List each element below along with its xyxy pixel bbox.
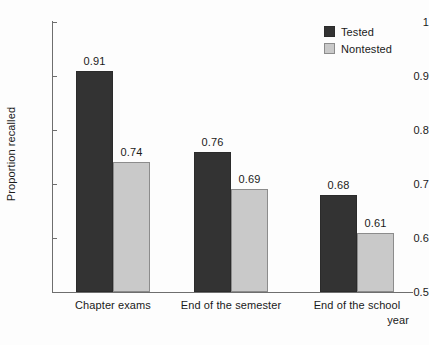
bar-chart-figure: 10.90.80.70.60.5 Proportion recalled 0.9… [0,0,429,345]
legend-item-tested[interactable]: Tested [324,24,392,39]
plot-area: 0.910.760.680.740.690.61 [52,22,412,292]
y-axis-tick-mark [52,292,57,293]
x-axis-line [52,292,413,293]
bar-value-label: 0.68 [314,179,363,191]
bar-nontested-0[interactable] [113,162,150,292]
legend-swatch-icon [324,26,335,37]
bar-tested-2[interactable] [320,195,357,292]
bar-value-label: 0.91 [70,55,119,67]
legend-item-label: Tested [341,26,374,38]
x-axis-label-line1: Chapter exams [75,299,151,311]
chart-legend: TestedNontested [324,24,392,58]
y-axis-title: Proportion recalled [5,94,17,214]
bar-value-label: 0.69 [225,173,274,185]
x-axis-label-1: End of the semester [161,298,301,313]
legend-item-label: Nontested [341,43,392,55]
bar-nontested-2[interactable] [357,233,394,292]
bar-nontested-1[interactable] [231,189,268,292]
legend-item-nontested[interactable]: Nontested [324,41,392,56]
bar-tested-0[interactable] [76,71,113,292]
bar-value-label: 0.74 [107,146,156,158]
bar-value-label: 0.61 [351,217,400,229]
x-axis-label-line1: End of the semester [181,299,281,311]
legend-swatch-icon [324,43,335,54]
x-axis-label-line2: year [287,313,427,328]
bar-value-label: 0.76 [188,136,237,148]
x-axis-label-2: End of the schoolyear [287,298,427,328]
x-axis-label-line1: End of the school [314,299,401,311]
